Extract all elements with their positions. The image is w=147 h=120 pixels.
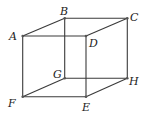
- vertex-label-B: B: [59, 5, 68, 18]
- edge-HE: [86, 78, 127, 96]
- vertex-F: [21, 95, 24, 98]
- edge-FG: [23, 78, 65, 96]
- vertex-C: [126, 17, 129, 20]
- vertex-label-G: G: [53, 68, 62, 81]
- vertex-label-F: F: [7, 97, 16, 110]
- vertex-D: [85, 35, 88, 38]
- vertex-label-C: C: [130, 11, 139, 24]
- cube-diagram: ABCDGHFE: [0, 0, 147, 120]
- vertex-label-A: A: [8, 30, 17, 43]
- cube-vertices: [21, 17, 128, 98]
- edge-CD: [86, 18, 127, 36]
- vertex-E: [85, 95, 88, 98]
- cube-edges: [23, 18, 128, 96]
- vertex-A: [21, 35, 24, 38]
- vertex-G: [63, 77, 66, 80]
- edge-AB: [23, 18, 65, 36]
- vertex-label-D: D: [88, 37, 98, 50]
- vertex-label-H: H: [128, 75, 139, 88]
- vertex-label-E: E: [81, 101, 90, 114]
